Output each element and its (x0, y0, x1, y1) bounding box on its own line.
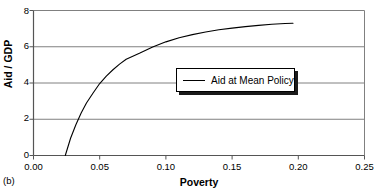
x-tick-label: 0.15 (223, 162, 242, 172)
x-tick-label: 0.10 (157, 162, 176, 172)
panel-label: (b) (3, 175, 15, 186)
x-tick-label: 0.00 (24, 162, 43, 172)
x-tick-label: 0.20 (289, 162, 308, 172)
legend-label: Aid at Mean Policy (211, 75, 294, 86)
chart-legend: Aid at Mean Policy (176, 68, 295, 92)
x-tick-label: 0.25 (355, 162, 374, 172)
legend-line-swatch (183, 80, 205, 81)
x-axis-tick-labels: 0.00 0.05 0.10 0.15 0.20 0.25 (0, 0, 384, 193)
x-tick-label: 0.05 (90, 162, 109, 172)
figure-panel-b: Aid / GDP 8 6 4 2 0 (0, 0, 384, 193)
x-axis-title: Poverty (33, 176, 365, 188)
